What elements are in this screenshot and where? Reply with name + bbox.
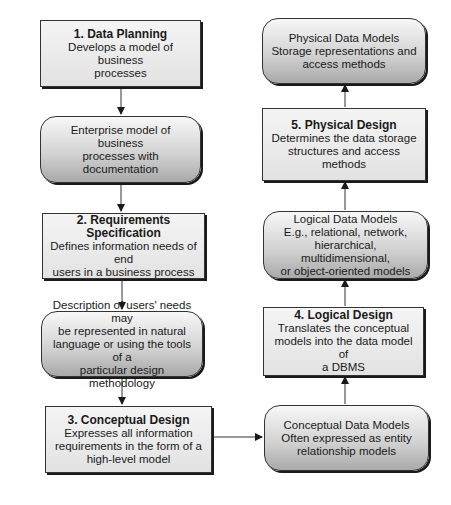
enterprise-model-box: Enterprise model of business processes w… (40, 116, 201, 183)
conceptual-data-models-line: Often expressed as entity (281, 432, 411, 445)
data-planning-line: processes (94, 67, 146, 80)
users-needs-line: be represented in natural (58, 325, 186, 338)
physical-data-models-line: Storage representations and (271, 45, 416, 58)
logical-data-models-line: hierarchical, multidimensional, (270, 239, 421, 265)
physical-data-models-line: access methods (302, 58, 385, 71)
logical-data-models-line: Logical Data Models (293, 213, 397, 226)
conceptual-design-line: high-level model (87, 453, 171, 466)
data-planning-line: Develops a model of business (47, 41, 194, 67)
logical-design-title: 4. Logical Design (294, 309, 393, 322)
logical-design-line: models into the data model of (270, 335, 417, 361)
conceptual-data-models-line: relationship models (297, 445, 396, 458)
conceptual-design-line: Expresses all information (64, 427, 192, 440)
logical-design-line: a DBMS (322, 361, 365, 374)
users-needs-line: particular design methodology (48, 364, 196, 390)
requirements-specification-box: 2. Requirements Specification Defines in… (42, 213, 205, 279)
physical-data-models-box: Physical Data Models Storage representat… (262, 18, 426, 84)
physical-data-models-line: Physical Data Models (289, 32, 400, 45)
physical-design-title: 5. Physical Design (291, 119, 396, 132)
users-needs-box: Description of users' needs may be repre… (41, 311, 203, 377)
conceptual-data-models-line: Conceptual Data Models (284, 419, 410, 432)
physical-design-box: 5. Physical Design Determines the data s… (262, 108, 426, 181)
physical-design-line: Determines the data storage (271, 132, 416, 145)
conceptual-design-line: requirements in the form of a (55, 440, 202, 453)
logical-design-box: 4. Logical Design Translates the concept… (263, 307, 424, 376)
enterprise-model-line: Enterprise model of business (47, 124, 194, 150)
logical-data-models-box: Logical Data Models E.g., relational, ne… (263, 211, 428, 279)
physical-design-line: methods (322, 158, 366, 171)
requirements-specification-title: 2. Requirements Specification (49, 214, 198, 240)
conceptual-design-box: 3. Conceptual Design Expresses all infor… (45, 406, 212, 473)
physical-design-line: structures and access (288, 145, 400, 158)
conceptual-data-models-box: Conceptual Data Models Often expressed a… (264, 405, 429, 471)
logical-data-models-line: E.g., relational, network, (284, 226, 407, 239)
conceptual-design-title: 3. Conceptual Design (67, 414, 189, 427)
enterprise-model-line: processes with documentation (47, 150, 194, 176)
logical-data-models-line: or object-oriented models (281, 265, 411, 278)
data-planning-title: 1. Data Planning (74, 28, 167, 41)
data-planning-box: 1. Data Planning Develops a model of bus… (40, 20, 201, 87)
requirements-specification-line: Defines information needs of end (49, 240, 198, 266)
requirements-specification-line: users in a business process (53, 266, 195, 279)
logical-design-line: Translates the conceptual (278, 322, 409, 335)
users-needs-line: Description of users' needs may (48, 299, 196, 325)
users-needs-line: language or using the tools of a (48, 338, 196, 364)
